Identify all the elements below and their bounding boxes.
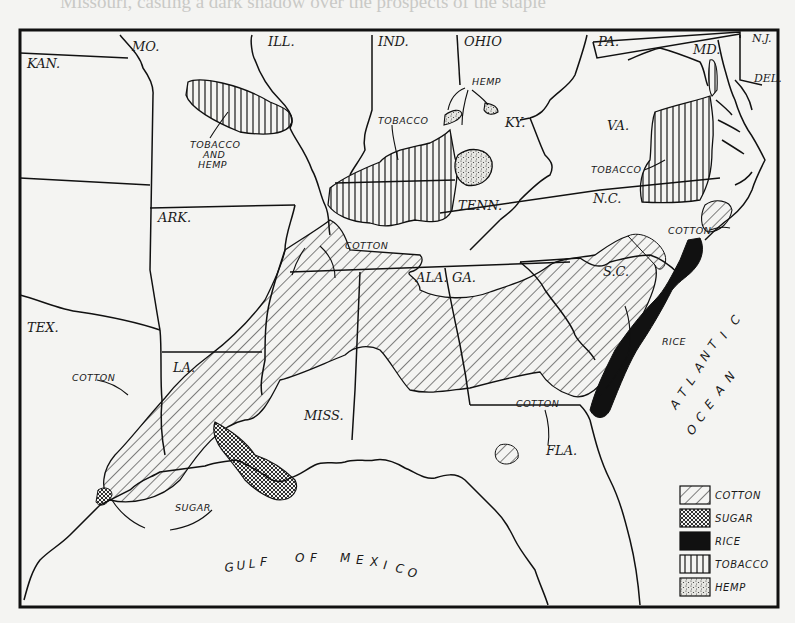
crop-label-rice: RICE bbox=[662, 336, 686, 347]
legend-label: HEMP bbox=[715, 582, 746, 593]
state-label-ark: ARK. bbox=[157, 210, 191, 225]
svg-text:E: E bbox=[356, 553, 364, 567]
state-label-tenn: TENN. bbox=[458, 198, 502, 213]
svg-text:U: U bbox=[236, 558, 246, 573]
state-label-tex: TEX. bbox=[27, 320, 59, 335]
crop-label-tobacco-va: TOBACCO bbox=[591, 164, 642, 175]
state-label-la: LA. bbox=[172, 360, 195, 375]
state-label-fla: FLA. bbox=[545, 443, 577, 458]
svg-text:F: F bbox=[260, 555, 268, 569]
cotton-swatch-icon bbox=[680, 486, 710, 504]
state-label-ohio: OHIO bbox=[464, 34, 502, 49]
rice-swatch-icon bbox=[680, 532, 710, 550]
agricultural-map: MO. ILL. IND. OHIO PA. MD. N.J. DEL. KAN… bbox=[0, 0, 795, 623]
crop-label-cotton-tex: COTTON bbox=[72, 372, 115, 383]
crop-label-hemp-ky: HEMP bbox=[472, 76, 501, 87]
state-label-ky: KY. bbox=[504, 115, 525, 130]
state-label-ga: GA. bbox=[452, 270, 476, 285]
legend-label: RICE bbox=[715, 536, 741, 547]
sugar-swatch-icon bbox=[680, 509, 710, 527]
state-label-del: DEL. bbox=[753, 72, 782, 85]
state-label-miss: MISS. bbox=[303, 408, 344, 423]
crop-label-tobacco-tenn: TOBACCO bbox=[378, 115, 429, 126]
state-label-ind: IND. bbox=[377, 34, 409, 49]
svg-text:F: F bbox=[310, 551, 318, 565]
tobacco-region-md bbox=[709, 60, 718, 96]
legend-label: TOBACCO bbox=[715, 559, 769, 570]
legend-label: COTTON bbox=[715, 490, 761, 501]
state-label-pa: PA. bbox=[597, 34, 619, 49]
state-label-nc: N.C. bbox=[592, 191, 621, 206]
state-label-mo: MO. bbox=[131, 39, 159, 54]
state-label-ala: ALA. bbox=[415, 270, 448, 285]
cotton-region-fla bbox=[495, 444, 518, 464]
state-label-sc: S.C. bbox=[603, 264, 629, 279]
crop-label-cotton-ga: COTTON bbox=[516, 398, 559, 409]
svg-text:G: G bbox=[224, 560, 235, 575]
state-label-kan: KAN. bbox=[26, 56, 60, 71]
state-label-nj: N.J. bbox=[751, 32, 771, 45]
crop-label-cotton-ala: COTTON bbox=[345, 240, 388, 251]
crop-label-cotton-nc: COTTON bbox=[668, 225, 711, 236]
svg-text:X: X bbox=[369, 555, 379, 569]
legend-label: SUGAR bbox=[715, 513, 753, 524]
state-label-md: MD. bbox=[692, 42, 720, 57]
tobacco-swatch-icon bbox=[680, 555, 710, 573]
svg-text:M: M bbox=[340, 551, 351, 565]
crop-label-sugar: SUGAR bbox=[175, 502, 211, 513]
crop-label-tobacco-and-hemp: HEMP bbox=[198, 159, 227, 170]
state-label-va: VA. bbox=[607, 118, 629, 133]
state-label-ill: ILL. bbox=[267, 34, 295, 49]
svg-text:L: L bbox=[248, 557, 256, 571]
hemp-swatch-icon bbox=[680, 578, 710, 596]
svg-text:O: O bbox=[295, 551, 304, 565]
